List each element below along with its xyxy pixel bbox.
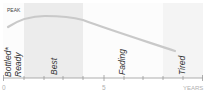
peak-label: PEAK xyxy=(7,7,21,13)
phase-label-best: Best xyxy=(49,57,59,75)
phase-label-bottled: Bottled* xyxy=(3,47,13,77)
x-tick-5: 5 xyxy=(102,84,106,91)
x-tick-0: 0 xyxy=(2,84,6,91)
x-axis-label: YEARS xyxy=(183,85,203,91)
x-tick-labels: 0 5 YEARS xyxy=(2,84,203,91)
phase-label-tired: Tired xyxy=(177,55,187,75)
wine-aging-chart: PEAK Bottled* Ready Best Fading Tired 0 … xyxy=(0,0,205,93)
phase-label-ready: Ready xyxy=(13,52,23,77)
phase-label-fading: Fading xyxy=(117,49,127,75)
